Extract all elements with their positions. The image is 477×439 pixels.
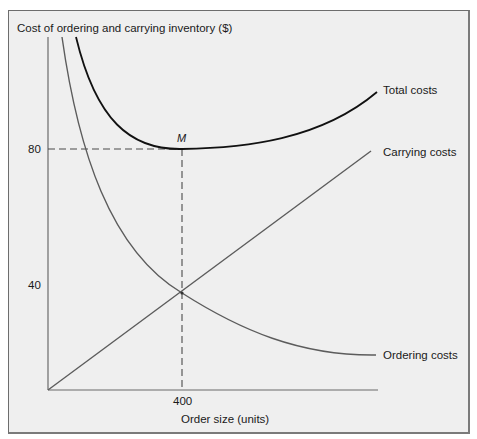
carrying-costs-line — [48, 151, 371, 390]
x-tick-400: 400 — [173, 395, 192, 407]
y-tick-80: 80 — [28, 143, 41, 155]
carrying-costs-label: Carrying costs — [383, 146, 457, 158]
ordering-costs-label: Ordering costs — [383, 349, 458, 361]
x-axis-title: Order size (units) — [181, 413, 269, 425]
total-costs-curve — [76, 37, 377, 149]
guides — [48, 149, 182, 390]
point-m-label: M — [177, 132, 187, 144]
total-costs-label: Total costs — [383, 84, 438, 96]
y-axis-title: Cost of ordering and carrying inventory … — [17, 22, 233, 34]
intersection-point — [180, 291, 183, 294]
ordering-costs-curve — [62, 37, 376, 355]
y-tick-40: 40 — [28, 279, 41, 291]
chart-svg: Cost of ordering and carrying inventory … — [0, 0, 477, 439]
axes — [48, 37, 378, 390]
